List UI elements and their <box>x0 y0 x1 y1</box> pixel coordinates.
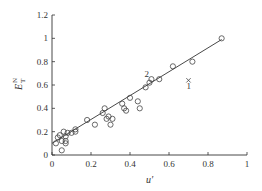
annotation-1: 1 <box>187 81 192 91</box>
data-point <box>108 122 113 127</box>
y-tick-label: 1.2 <box>37 10 48 20</box>
data-point <box>59 148 64 153</box>
y-tick-label: 0.2 <box>37 127 48 137</box>
x-tick-label: 0.2 <box>85 159 96 169</box>
tick-labels: 00.20.40.60.8100.20.40.60.811.2 <box>37 10 250 169</box>
data-point <box>170 64 175 69</box>
y-tick-label: 0.8 <box>37 57 49 67</box>
annotation-2: 2 <box>145 69 150 79</box>
y-tick-label: 0.6 <box>37 80 49 90</box>
svg-text:E: E <box>13 84 24 91</box>
svg-text:T: T <box>19 78 27 83</box>
data-point <box>135 99 140 104</box>
x-axis-label: u′ <box>146 174 154 185</box>
x-tick-label: 0.8 <box>202 159 214 169</box>
data-point <box>137 106 142 111</box>
x-tick-label: 0.4 <box>124 159 136 169</box>
data-point <box>53 141 58 146</box>
data-point <box>190 59 195 64</box>
svg-text:N: N <box>11 78 19 83</box>
data-point <box>219 36 224 41</box>
y-axis-label: E T N <box>11 78 27 91</box>
y-tick-label: 1 <box>44 33 49 43</box>
x-tick-label: 0 <box>50 159 55 169</box>
y-tick-label: 0 <box>44 150 49 160</box>
x-tick-label: 0.6 <box>163 159 175 169</box>
scatter-chart: 00.20.40.60.8100.20.40.60.811.2 1 2 u′ E… <box>0 0 262 191</box>
y-tick-label: 0.4 <box>37 103 49 113</box>
data-point <box>110 116 115 121</box>
x-tick-label: 1 <box>245 159 250 169</box>
data-point <box>92 122 97 127</box>
data-point <box>102 106 107 111</box>
